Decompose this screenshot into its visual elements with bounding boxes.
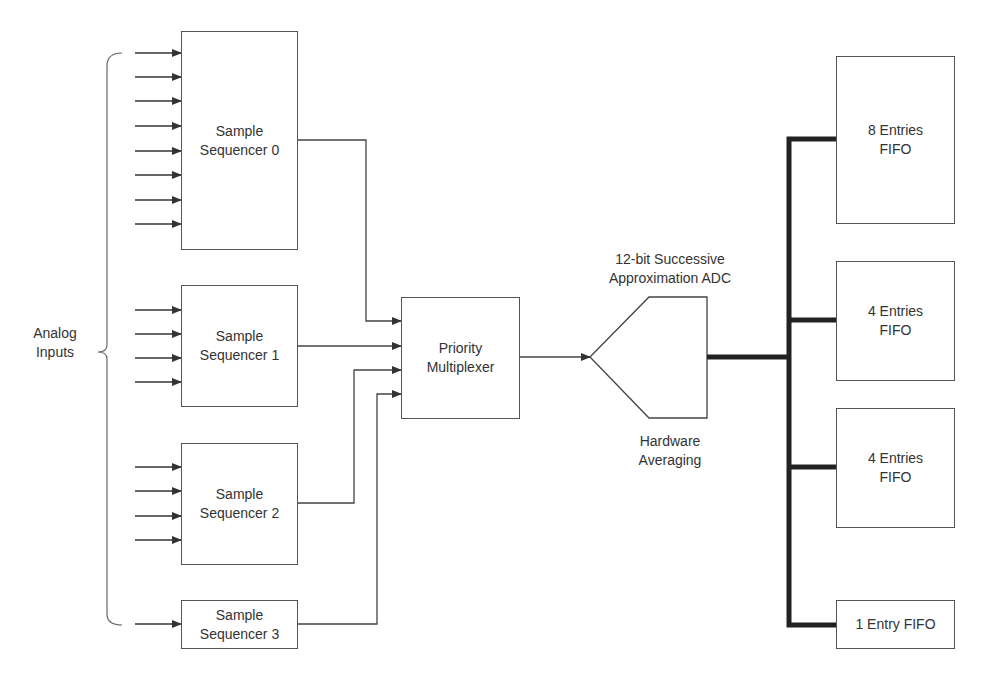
output-bus — [707, 139, 836, 625]
sequencer-1-label: Sample Sequencer 1 — [200, 327, 279, 365]
fifo-1-entry: 1 Entry FIFO — [836, 600, 955, 649]
fifo-2-label: 4 Entries FIFO — [868, 449, 923, 487]
adc-title: 12-bit Successive Approximation ADC — [570, 250, 770, 288]
sample-sequencer-1: Sample Sequencer 1 — [181, 285, 298, 407]
sample-sequencer-2: Sample Sequencer 2 — [181, 443, 298, 565]
fifo-0-label: 8 Entries FIFO — [868, 121, 923, 159]
analog-inputs-label: Analog Inputs — [20, 324, 90, 362]
fifo-3-label: 1 Entry FIFO — [855, 615, 935, 634]
priority-multiplexer: Priority Multiplexer — [401, 297, 520, 419]
fifo-4-entries-b: 4 Entries FIFO — [836, 408, 955, 528]
sample-sequencer-0: Sample Sequencer 0 — [181, 31, 298, 250]
sample-sequencer-3: Sample Sequencer 3 — [181, 600, 298, 649]
fifo-1-label: 4 Entries FIFO — [868, 302, 923, 340]
input-arrows — [135, 53, 181, 624]
analog-inputs-brace — [98, 53, 122, 625]
fifo-8-entries: 8 Entries FIFO — [836, 56, 955, 224]
sequencer-0-label: Sample Sequencer 0 — [200, 122, 279, 160]
multiplexer-label: Priority Multiplexer — [427, 339, 495, 377]
adc-shape — [590, 297, 707, 418]
sequencer-3-label: Sample Sequencer 3 — [200, 606, 279, 644]
sequencer-2-label: Sample Sequencer 2 — [200, 485, 279, 523]
fifo-4-entries-a: 4 Entries FIFO — [836, 261, 955, 381]
adc-subtitle: Hardware Averaging — [590, 432, 750, 470]
